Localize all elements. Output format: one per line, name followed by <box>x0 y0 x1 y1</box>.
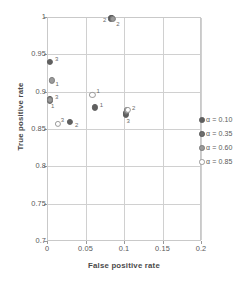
y-axis-title: True positive rate <box>16 42 25 192</box>
legend-swatch-icon <box>199 159 205 165</box>
data-point-label: 2 <box>116 21 119 27</box>
data-point-label: 3 <box>55 56 58 62</box>
y-tick-label: 0.75 <box>6 200 46 208</box>
gridline-horizontal <box>48 92 200 93</box>
data-point-label: 3 <box>55 94 58 100</box>
data-point-label: 1 <box>56 81 59 87</box>
plot-area <box>47 17 201 241</box>
data-point-label: 1 <box>51 103 54 109</box>
data-point-label: 1 <box>96 88 99 94</box>
legend-swatch-icon <box>199 145 205 151</box>
y-tick-label: 1 <box>6 13 46 21</box>
x-axis-title: False positive rate <box>47 261 201 270</box>
legend-label: α = 0.10 <box>206 116 232 124</box>
data-point-label: 2 <box>75 122 78 128</box>
y-tick-label: 0.95 <box>6 50 46 58</box>
x-tick-label: 0.15 <box>143 245 183 253</box>
x-tick-label: 0.1 <box>104 245 144 253</box>
legend-item-2[interactable]: α = 0.60 <box>199 141 252 155</box>
data-point-label: 3 <box>61 117 64 123</box>
legend-label: α = 0.60 <box>206 144 232 152</box>
gridline-horizontal <box>48 129 200 130</box>
legend-swatch-icon <box>199 117 205 123</box>
legend-item-3[interactable]: α = 0.85 <box>199 155 252 169</box>
legend-item-1[interactable]: α = 0.35 <box>199 127 252 141</box>
gridline-horizontal <box>48 54 200 55</box>
chart-legend: α = 0.10α = 0.35α = 0.60α = 0.85 <box>199 113 252 169</box>
legend-label: α = 0.35 <box>206 130 232 138</box>
x-tick-label: 0 <box>27 245 67 253</box>
y-tick-label: 0.7 <box>6 237 46 245</box>
gridline-horizontal <box>48 166 200 167</box>
legend-label: α = 0.85 <box>206 158 232 166</box>
legend-item-0[interactable]: α = 0.10 <box>199 113 252 127</box>
y-tick-label: 0.85 <box>6 125 46 133</box>
x-tick-label: 0.2 <box>181 245 221 253</box>
data-point-label: 2 <box>103 17 106 23</box>
gridline-horizontal <box>48 204 200 205</box>
legend-swatch-icon <box>199 131 205 137</box>
y-tick-label: 0.9 <box>6 88 46 96</box>
data-point-label: 3 <box>127 118 130 124</box>
data-point-label: 2 <box>132 105 135 111</box>
data-point-label: 1 <box>100 102 103 108</box>
scatter-chart: 00.050.10.150.20.70.750.80.850.90.951 11… <box>0 0 252 285</box>
y-tick-label: 0.8 <box>6 162 46 170</box>
x-tick-label: 0.05 <box>66 245 106 253</box>
